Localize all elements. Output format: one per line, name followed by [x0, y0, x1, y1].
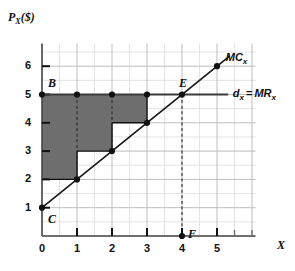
y-tick-label-6: 6 — [25, 59, 31, 71]
point-label-B: B — [48, 76, 56, 91]
x-tick-label-5: 5 — [214, 242, 220, 254]
y-tick-label-4: 4 — [25, 116, 31, 128]
x-tick-label-4: 4 — [179, 242, 185, 254]
data-point-p-1-5 — [74, 91, 80, 97]
data-point-mc-5-6 — [214, 63, 220, 69]
data-point-p-3-5 — [144, 91, 150, 97]
demand-label-mr-sub: x — [271, 93, 275, 102]
y-tick-label-3: 3 — [25, 144, 31, 156]
y-axis-title: PX($) — [8, 10, 35, 26]
x-tick-label-0: 0 — [39, 242, 45, 254]
chart-canvas — [0, 0, 295, 271]
chart-figure: PX($) X 123456012345BECFMCxdx=MRx — [0, 0, 295, 271]
x-axis-title: X — [277, 238, 285, 253]
demand-label-mr: MR — [254, 87, 271, 99]
data-point-mc-2-3 — [109, 148, 115, 154]
point-label-C: C — [48, 212, 56, 227]
point-label-F: F — [188, 227, 196, 242]
y-tick-label-1: 1 — [25, 201, 31, 213]
series-label-mc: MCx — [226, 51, 248, 66]
data-point-e — [179, 91, 185, 97]
data-point-p-2-5 — [109, 91, 115, 97]
data-point-f — [179, 233, 185, 239]
demand-label-eq: = — [244, 87, 254, 99]
x-tick-label-3: 3 — [144, 242, 150, 254]
x-tick-label-1: 1 — [74, 242, 80, 254]
y-axis-title-unit: ($) — [21, 10, 35, 24]
data-point-mc-3-4 — [144, 120, 150, 126]
series-label-mc-sub: x — [243, 57, 247, 66]
series-label-mc-text: MC — [226, 51, 243, 63]
data-point-mc-1-2 — [74, 176, 80, 182]
point-label-E: E — [179, 76, 187, 91]
data-point-c — [39, 205, 45, 211]
data-point-b — [39, 91, 45, 97]
y-tick-label-2: 2 — [25, 172, 31, 184]
x-tick-label-2: 2 — [109, 242, 115, 254]
y-tick-label-5: 5 — [25, 88, 31, 100]
series-label-demand: dx=MRx — [233, 87, 276, 102]
